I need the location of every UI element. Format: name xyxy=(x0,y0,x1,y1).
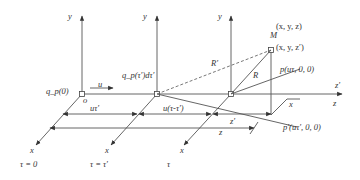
time-label-0: τ = 0 xyxy=(20,159,38,169)
diagram-svg: y y y q_p(0) o u q_p(τ′)dτ′ M (x, y, z) … xyxy=(0,0,360,180)
R-line xyxy=(231,50,271,94)
origin-label: o xyxy=(83,95,87,105)
charge-label-tau-prime: q_p(τ′)dτ′ xyxy=(122,70,155,80)
R-label: R xyxy=(252,70,259,80)
x-small-label: x xyxy=(288,99,293,109)
coord-xyz-label: (x, y, z) xyxy=(276,21,302,31)
x-label-3: x xyxy=(179,145,184,155)
z-prime-axis-label: z′ xyxy=(334,80,340,90)
frame-tau-0 xyxy=(36,16,85,145)
point-M-label: M xyxy=(269,30,278,40)
p-label: p(uτ, 0, 0) xyxy=(279,64,314,74)
charge-label-0: q_p(0) xyxy=(46,86,69,96)
x-axis-1 xyxy=(36,94,82,145)
y-label-3: y xyxy=(217,11,222,21)
z-axis-label: z xyxy=(332,98,337,108)
dist-z-prime-label: z′ xyxy=(229,116,235,126)
time-label-tau: τ xyxy=(167,159,171,169)
dist-u-tau-diff-label: u(τ-τ′) xyxy=(163,103,184,113)
dist-ut-prime-label: uτ′ xyxy=(90,103,99,113)
y-label-1: y xyxy=(67,11,72,21)
y-label-2: y xyxy=(142,11,147,21)
p-prime-label: p′(uτ′, 0, 0) xyxy=(282,122,321,132)
x-axis-2 xyxy=(111,94,157,145)
time-label-tau-prime: τ = τ′ xyxy=(90,159,108,169)
R-prime-label: R′ xyxy=(210,58,218,68)
x-offset-line xyxy=(271,99,287,115)
x-label-1: x xyxy=(29,145,34,155)
diagram-canvas: y y y q_p(0) o u q_p(τ′)dτ′ M (x, y, z) … xyxy=(0,0,360,180)
x-label-2: x xyxy=(104,145,109,155)
velocity-label: u xyxy=(98,79,102,89)
coord-xyz-prime-label: (x, y, z′) xyxy=(276,42,304,52)
frame-tau-prime xyxy=(111,16,160,145)
dist-z-label: z xyxy=(218,127,223,137)
